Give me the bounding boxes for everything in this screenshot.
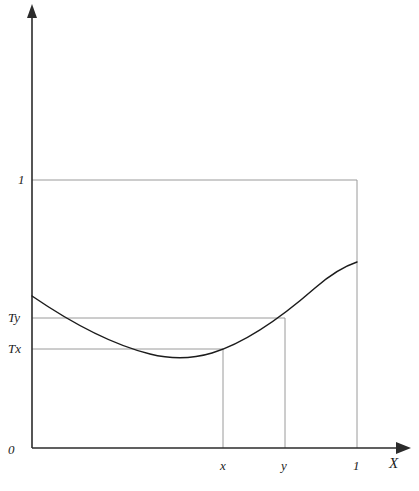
x-axis-title: X — [389, 456, 398, 471]
x-axis-arrow-icon — [396, 442, 411, 454]
origin-label: 0 — [8, 443, 15, 456]
x-tick-label-x: x — [220, 459, 226, 472]
x-tick-label-one: 1 — [353, 459, 360, 472]
y-tick-label-ty: Ty — [8, 311, 20, 324]
x-tick-label-y: y — [281, 459, 287, 472]
diagram-svg — [0, 0, 419, 491]
y-tick-label-tx: Tx — [8, 342, 21, 355]
y-tick-label-one: 1 — [18, 173, 25, 186]
y-axis-arrow-icon — [27, 4, 37, 18]
convex-curve-path — [32, 262, 357, 358]
figure-canvas: 1 Ty Tx 0 x y 1 X — [0, 0, 419, 491]
